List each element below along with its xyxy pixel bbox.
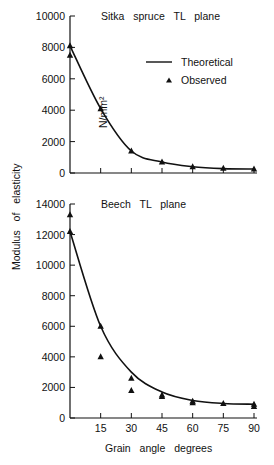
plot-beech: 0200040006000800010000120001400015304560… — [36, 198, 260, 434]
observed-marker-icon — [67, 42, 73, 48]
x-tick-label: 90 — [248, 422, 260, 434]
observed-marker-icon — [67, 211, 73, 217]
y-tick-label: 2000 — [42, 381, 66, 393]
observed-marker-icon — [128, 375, 134, 381]
legend: TheoreticalObserved — [146, 56, 233, 86]
observed-marker-icon — [67, 228, 73, 234]
observed-marker-icon — [97, 353, 103, 359]
x-tick-label: 75 — [217, 422, 229, 434]
y-axis-label: Modulus of elasticity — [10, 163, 22, 270]
y-tick-label: 6000 — [42, 320, 66, 332]
y-tick-label: 14000 — [36, 198, 65, 210]
y-tick-label: 12000 — [36, 229, 65, 241]
chart-figure: 0200040006000800010000Sitka spruce TL pl… — [0, 0, 274, 465]
legend-observed: Observed — [181, 74, 227, 86]
y-tick-label: 8000 — [42, 290, 66, 302]
observed-triangle-icon — [166, 78, 172, 83]
y-tick-label: 8000 — [42, 41, 66, 53]
y-unit-label: N/mm² — [97, 96, 109, 128]
plot-title: Sitka spruce TL plane — [101, 10, 220, 22]
x-axis-label: Grain angle degrees — [105, 442, 212, 454]
legend-theoretical: Theoretical — [181, 56, 233, 68]
y-tick-label: 0 — [59, 167, 65, 179]
observed-marker-icon — [67, 52, 73, 58]
y-tick-label: 4000 — [42, 351, 66, 363]
plot-sitka-spruce: 0200040006000800010000Sitka spruce TL pl… — [36, 10, 257, 179]
y-tick-label: 2000 — [42, 136, 66, 148]
x-tick-label: 15 — [95, 422, 107, 434]
y-tick-label: 6000 — [42, 73, 66, 85]
theoretical-curve — [70, 232, 254, 405]
y-tick-label: 10000 — [36, 259, 65, 271]
y-tick-label: 10000 — [36, 10, 65, 22]
y-tick-label: 4000 — [42, 104, 66, 116]
y-tick-label: 0 — [59, 412, 65, 424]
observed-marker-icon — [128, 387, 134, 393]
observed-marker-icon — [97, 323, 103, 329]
x-tick-label: 60 — [187, 422, 199, 434]
x-tick-label: 45 — [156, 422, 168, 434]
plot-title: Beech TL plane — [101, 198, 186, 210]
x-tick-label: 30 — [125, 422, 137, 434]
